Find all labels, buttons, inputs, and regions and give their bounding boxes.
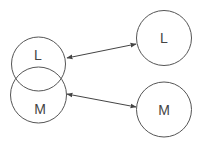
node-right-L: L — [137, 11, 192, 66]
node-left-L: L — [12, 37, 66, 91]
diagram-canvas: LMLM — [0, 0, 203, 147]
node-label: M — [34, 101, 46, 117]
node-left-M: M — [11, 67, 67, 123]
node-right-M: M — [137, 82, 192, 137]
bidirectional-arrow-left-L-right-L — [67, 44, 136, 58]
node-label: M — [158, 102, 170, 118]
node-circle — [12, 37, 66, 91]
node-label: L — [160, 30, 168, 46]
node-label: L — [34, 47, 42, 63]
bidirectional-arrow-left-M-right-M — [67, 94, 136, 107]
